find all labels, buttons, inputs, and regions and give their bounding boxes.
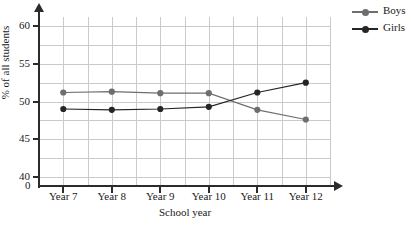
data-point-boys-5 bbox=[303, 116, 309, 122]
data-point-boys-4 bbox=[254, 107, 260, 113]
y-axis-origin-label: 0 bbox=[25, 180, 31, 191]
legend-line-icon bbox=[352, 28, 378, 30]
data-point-boys-1 bbox=[109, 89, 115, 95]
legend: BoysGirls bbox=[352, 4, 413, 38]
legend-line-icon bbox=[352, 11, 378, 13]
legend-label: Girls bbox=[383, 22, 405, 33]
x-tick-label: Year 12 bbox=[278, 191, 334, 202]
data-point-girls-2 bbox=[157, 106, 163, 112]
y-tick bbox=[33, 25, 40, 27]
series-layer bbox=[39, 17, 330, 186]
chart-figure: 4045505560 Year 7Year 8Year 9Year 10Year… bbox=[0, 0, 413, 226]
plot-area bbox=[39, 17, 330, 186]
y-tick-label: 55 bbox=[8, 58, 30, 69]
y-axis-arrow-icon bbox=[34, 3, 44, 12]
y-tick-label: 50 bbox=[8, 96, 30, 107]
legend-marker-icon bbox=[362, 9, 369, 16]
data-point-boys-0 bbox=[60, 89, 66, 95]
series-line-boys bbox=[63, 92, 305, 120]
y-tick bbox=[33, 138, 40, 140]
y-axis-title: % of all students bbox=[0, 8, 11, 118]
y-tick bbox=[33, 63, 40, 65]
data-point-girls-0 bbox=[60, 106, 66, 112]
y-tick-label: 60 bbox=[8, 20, 30, 31]
x-axis-arrow-icon bbox=[334, 181, 343, 191]
x-axis-line bbox=[38, 185, 338, 187]
x-axis-title: School year bbox=[120, 207, 250, 218]
legend-label: Boys bbox=[383, 5, 406, 16]
y-tick bbox=[33, 176, 40, 178]
data-point-girls-3 bbox=[206, 104, 212, 110]
y-tick bbox=[33, 101, 40, 103]
data-point-boys-3 bbox=[206, 90, 212, 96]
data-point-girls-1 bbox=[109, 107, 115, 113]
data-point-girls-5 bbox=[303, 80, 309, 86]
y-tick-label: 45 bbox=[8, 133, 30, 144]
legend-item-girls: Girls bbox=[352, 21, 413, 38]
legend-item-boys: Boys bbox=[352, 4, 413, 21]
series-line-girls bbox=[63, 83, 305, 110]
legend-marker-icon bbox=[362, 26, 369, 33]
data-point-girls-4 bbox=[254, 89, 260, 95]
data-point-boys-2 bbox=[157, 90, 163, 96]
y-axis-line bbox=[38, 10, 40, 188]
gridline-v bbox=[330, 17, 331, 186]
